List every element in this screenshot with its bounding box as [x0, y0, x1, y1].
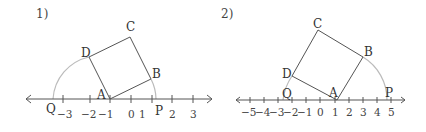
tick-label: 5	[388, 106, 395, 118]
arc-b-p	[363, 57, 387, 100]
figure-1: 1) C D B A Q P −3 −2 −1 0 1 2 3	[26, 7, 212, 120]
point-label-q: Q	[282, 87, 292, 101]
arc-q-d	[53, 57, 89, 99]
tick-label: −2	[81, 108, 96, 120]
tick-label: 1	[332, 106, 339, 118]
point-label-b: B	[364, 45, 373, 59]
tick-label: 3	[190, 108, 197, 120]
tick-label: −3	[57, 108, 72, 120]
tick-label: 3	[360, 106, 367, 118]
tick-label: −1	[98, 108, 113, 120]
figure-2-title: 2)	[221, 7, 233, 21]
tick-label: 0	[128, 108, 135, 120]
point-label-d: D	[282, 67, 292, 81]
figure-2: 2) C B D A Q P −5 −4 −	[221, 7, 405, 118]
point-label-a: A	[96, 88, 106, 102]
point-label-d: D	[81, 46, 91, 60]
tick-label: 4	[374, 106, 381, 118]
tick-label: 2	[169, 108, 176, 120]
point-label-p: P	[155, 104, 163, 118]
tick-label: 0	[317, 106, 324, 118]
figure-1-title: 1)	[36, 7, 48, 21]
point-label-q: Q	[46, 102, 56, 116]
square-abcd	[292, 30, 363, 100]
tick-label: 2	[346, 106, 353, 118]
point-label-a: A	[328, 86, 338, 100]
point-label-b: B	[152, 67, 161, 81]
tick-label: 1	[139, 108, 146, 120]
point-label-c: C	[313, 17, 322, 31]
diagram-canvas: 1) C D B A Q P −3 −2 −1 0 1 2 3	[0, 0, 426, 132]
point-label-p: P	[385, 86, 393, 100]
point-label-c: C	[126, 20, 135, 34]
tick-label: −1	[297, 106, 312, 118]
